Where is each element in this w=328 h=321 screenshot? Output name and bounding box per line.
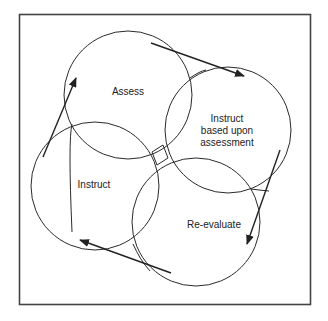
label-instruct-based-line2: based upon (201, 125, 253, 136)
label-instruct: Instruct (78, 179, 111, 190)
arrow-instruct-to-assess (43, 78, 76, 157)
label-re-evaluate: Re-evaluate (187, 219, 241, 230)
label-instruct-based-line3: assessment (200, 137, 254, 148)
arrow-re-evaluate-to-instruct (80, 240, 171, 273)
connector-assess-instruct-based (190, 70, 206, 78)
connector-re-evaluate-instruct (133, 244, 150, 271)
cycle-diagram: Assess Instruct based upon assessment Re… (0, 0, 328, 321)
arrow-instruct-based-to-re-evaluate (247, 150, 280, 244)
arrow-assess-to-instruct-based (151, 43, 244, 76)
label-instruct-based-line1: Instruct (211, 113, 244, 124)
label-assess: Assess (112, 86, 144, 97)
connector-instruct-assess (70, 124, 72, 232)
